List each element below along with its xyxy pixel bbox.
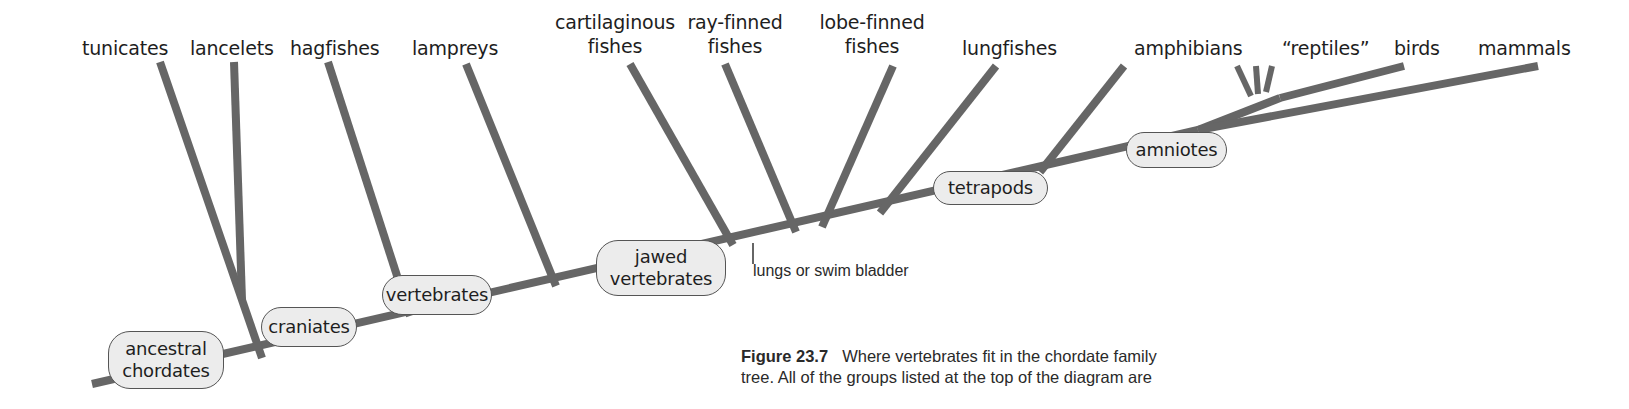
branch-lancelets bbox=[234, 62, 242, 300]
node-jawed-vertebrates: jawed vertebrates bbox=[596, 240, 726, 296]
taxon-label-mammals: mammals bbox=[1478, 36, 1571, 60]
annotation-lungs-or-swim-bladder: lungs or swim bladder bbox=[753, 262, 909, 280]
branch-cartilaginous-fishes bbox=[630, 64, 733, 245]
node-tetrapods: tetrapods bbox=[933, 171, 1048, 205]
caption-line-1: Where vertebrates fit in the chordate fa… bbox=[842, 347, 1157, 365]
taxon-label-ray-finned-fishes: ray-finned fishes bbox=[680, 10, 790, 58]
taxon-label-lampreys: lampreys bbox=[412, 36, 498, 60]
taxon-label-hagfishes: hagfishes bbox=[290, 36, 379, 60]
caption-label: Figure 23.7 bbox=[741, 347, 828, 365]
node-amniotes: amniotes bbox=[1126, 132, 1227, 168]
taxon-label-amphibians: amphibians bbox=[1134, 36, 1242, 60]
branch-ray-finned-fishes bbox=[725, 64, 796, 232]
caption-line-2: tree. All of the groups listed at the to… bbox=[741, 367, 1629, 388]
figure-caption: Figure 23.7Where vertebrates fit in the … bbox=[741, 346, 1629, 388]
branch-reptile-3 bbox=[1266, 66, 1272, 92]
node-ancestral-chordates: ancestral chordates bbox=[108, 331, 224, 389]
taxon-label-reptiles: “reptiles” bbox=[1282, 36, 1369, 60]
cladogram-figure: tunicates lancelets hagfishes lampreys c… bbox=[0, 0, 1629, 409]
node-vertebrates: vertebrates bbox=[382, 275, 492, 315]
node-craniates: craniates bbox=[261, 307, 357, 347]
taxon-label-lungfishes: lungfishes bbox=[962, 36, 1057, 60]
taxon-label-lobe-finned-fishes: lobe-finned fishes bbox=[812, 10, 932, 58]
taxon-label-lancelets: lancelets bbox=[190, 36, 274, 60]
taxon-label-cartilaginous-fishes: cartilaginous fishes bbox=[540, 10, 690, 58]
branch-lampreys bbox=[466, 64, 556, 286]
taxon-label-tunicates: tunicates bbox=[82, 36, 168, 60]
taxon-label-birds: birds bbox=[1394, 36, 1440, 60]
branch-reptile-1 bbox=[1237, 66, 1251, 96]
branch-tunicates bbox=[160, 62, 262, 358]
branch-reptile-2 bbox=[1256, 66, 1258, 94]
